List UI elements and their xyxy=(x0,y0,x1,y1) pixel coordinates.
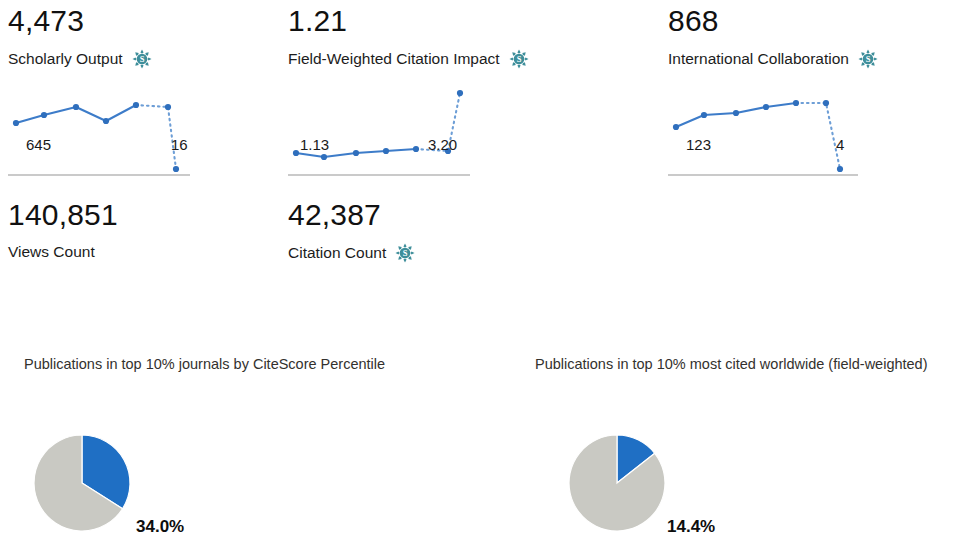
pie-chart-title: Publications in top 10% journals by Cite… xyxy=(24,352,385,377)
metric-label: Views Count xyxy=(8,243,95,261)
pie-chart-top10-most-cited-worldwide[interactable]: Publications in top 10% most cited world… xyxy=(535,352,928,535)
sparkline-start-label: 123 xyxy=(686,137,711,153)
sparkline-svg xyxy=(668,75,858,179)
svg-text:S: S xyxy=(516,54,521,64)
scival-metrics-overview: 4,473 Scholarly Output S xyxy=(0,0,960,560)
metric-label: Scholarly Output xyxy=(8,50,123,68)
sparkline-end-label: 4 xyxy=(836,137,844,153)
svg-text:S: S xyxy=(139,54,144,64)
pie-chart-area: 14.4% xyxy=(535,395,928,535)
metric-label: Citation Count xyxy=(288,244,386,262)
sparkline-scholarly-output[interactable]: 645 16 xyxy=(8,75,198,179)
metric-label-row: Scholarly Output S xyxy=(8,49,198,69)
sparkline-field-weighted-citation-impact[interactable]: 1.13 3.20 xyxy=(288,75,529,179)
pie-chart-area: 34.0% xyxy=(24,395,385,535)
metric-value: 42,387 xyxy=(288,200,415,230)
metric-label-row: Citation Count S xyxy=(288,243,415,263)
metric-card-citation-count[interactable]: 42,387 Citation Count S xyxy=(288,200,415,263)
sparkline-svg xyxy=(8,75,198,179)
metric-label-row: Field-Weighted Citation Impact S xyxy=(288,49,529,69)
sparkline-end-label: 16 xyxy=(171,137,188,153)
pie-chart-title: Publications in top 10% most cited world… xyxy=(535,352,928,377)
pie-percentage-label: 14.4% xyxy=(667,517,715,537)
metric-card-international-collaboration[interactable]: 868 International Collaboration xyxy=(668,6,878,179)
metric-value: 1.21 xyxy=(288,6,529,36)
sparkline-start-label: 645 xyxy=(26,137,51,153)
metric-value: 4,473 xyxy=(8,6,198,36)
sparkline-start-label: 1.13 xyxy=(300,137,329,153)
metric-label-row: Views Count xyxy=(8,243,118,261)
pie-svg[interactable] xyxy=(535,395,755,535)
scival-snowflake-icon[interactable]: S xyxy=(132,49,152,69)
metric-label-row: International Collaboration S xyxy=(668,49,878,69)
metric-card-scholarly-output[interactable]: 4,473 Scholarly Output S xyxy=(8,6,198,179)
metric-value: 868 xyxy=(668,6,878,36)
scival-snowflake-icon[interactable]: S xyxy=(858,49,878,69)
metric-card-views-count[interactable]: 140,851 Views Count xyxy=(8,200,118,261)
metric-value: 140,851 xyxy=(8,200,118,230)
pie-percentage-label: 34.0% xyxy=(136,517,184,537)
scival-snowflake-icon[interactable]: S xyxy=(509,49,529,69)
svg-text:S: S xyxy=(866,54,871,64)
sparkline-svg xyxy=(288,75,478,179)
sparkline-end-label: 3.20 xyxy=(428,137,457,153)
pie-chart-top10-journals-citescore[interactable]: Publications in top 10% journals by Cite… xyxy=(24,352,385,535)
metric-label: Field-Weighted Citation Impact xyxy=(288,50,500,68)
pie-svg[interactable] xyxy=(24,395,224,535)
sparkline-international-collaboration[interactable]: 123 4 xyxy=(668,75,878,179)
metric-label: International Collaboration xyxy=(668,50,849,68)
svg-text:S: S xyxy=(403,248,408,258)
metric-card-field-weighted-citation-impact[interactable]: 1.21 Field-Weighted Citation Impact xyxy=(288,6,529,179)
scival-snowflake-icon[interactable]: S xyxy=(395,243,415,263)
